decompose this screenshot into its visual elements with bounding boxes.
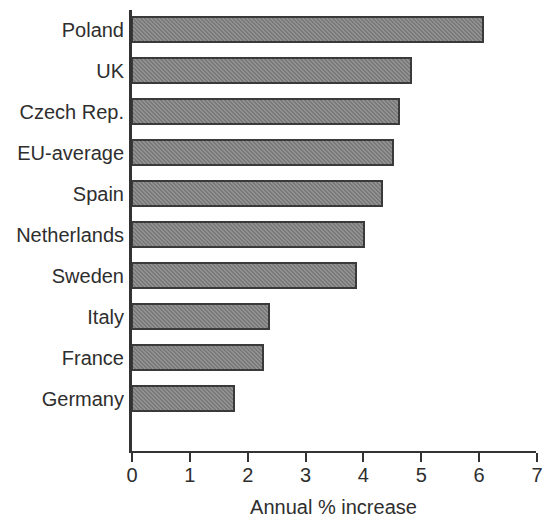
x-tick-4 xyxy=(362,453,364,462)
bar-row xyxy=(131,379,541,420)
y-axis-line xyxy=(129,10,132,453)
x-axis-line xyxy=(131,451,536,453)
category-label-eu-average: EU-average xyxy=(2,133,124,174)
category-axis-labels: Poland UK Czech Rep. EU-average Spain Ne… xyxy=(0,10,124,451)
x-tick-5 xyxy=(420,453,422,462)
x-tick-1 xyxy=(189,453,191,462)
bar-eu-average xyxy=(131,139,394,166)
x-tick-label-3: 3 xyxy=(291,462,321,488)
bar-row xyxy=(131,338,541,379)
x-tick-0 xyxy=(131,453,133,462)
bar-czech-rep xyxy=(131,98,400,125)
bar-row xyxy=(131,92,541,133)
bar-row xyxy=(131,10,541,51)
bar-germany xyxy=(131,385,235,412)
x-tick-2 xyxy=(247,453,249,462)
bar-row xyxy=(131,256,541,297)
x-axis-title: Annual % increase xyxy=(131,494,536,520)
bar-spain xyxy=(131,180,383,207)
x-tick-7 xyxy=(536,453,538,462)
x-tick-label-7: 7 xyxy=(522,462,552,488)
bar-row xyxy=(131,133,541,174)
x-tick-label-5: 5 xyxy=(406,462,436,488)
bar-france xyxy=(131,344,264,371)
x-tick-label-6: 6 xyxy=(464,462,494,488)
bar-netherlands xyxy=(131,221,365,248)
category-label-uk: UK xyxy=(2,51,124,92)
bar-poland xyxy=(131,16,484,43)
bar-row xyxy=(131,297,541,338)
category-label-spain: Spain xyxy=(2,174,124,215)
category-label-czech-rep: Czech Rep. xyxy=(2,92,124,133)
category-label-netherlands: Netherlands xyxy=(2,215,124,256)
category-label-germany: Germany xyxy=(2,379,124,420)
bar-row xyxy=(131,215,541,256)
bar-row xyxy=(131,174,541,215)
category-label-sweden: Sweden xyxy=(2,256,124,297)
bar-series xyxy=(131,10,541,451)
bar-chart: Poland UK Czech Rep. EU-average Spain Ne… xyxy=(0,0,554,527)
x-tick-label-0: 0 xyxy=(117,462,147,488)
category-label-poland: Poland xyxy=(2,10,124,51)
x-tick-3 xyxy=(305,453,307,462)
bar-italy xyxy=(131,303,270,330)
bar-sweden xyxy=(131,262,357,289)
x-tick-label-1: 1 xyxy=(175,462,205,488)
x-tick-label-4: 4 xyxy=(348,462,378,488)
bar-uk xyxy=(131,57,412,84)
bar-row xyxy=(131,51,541,92)
category-label-france: France xyxy=(2,338,124,379)
x-tick-6 xyxy=(478,453,480,462)
x-tick-label-2: 2 xyxy=(233,462,263,488)
category-label-italy: Italy xyxy=(2,297,124,338)
